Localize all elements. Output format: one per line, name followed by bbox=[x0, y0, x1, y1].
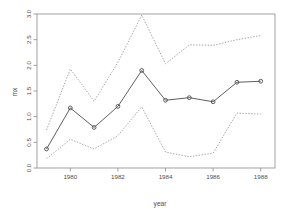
x-axis-title: year bbox=[154, 200, 168, 208]
chart-background bbox=[0, 0, 286, 218]
x-tick-label: 1988 bbox=[254, 173, 268, 180]
y-tick-label: 2.5 bbox=[25, 35, 32, 44]
x-tick-label: 1986 bbox=[206, 173, 220, 180]
line-chart: 0.00.51.01.52.02.53.0 198019821984198619… bbox=[0, 0, 286, 218]
y-axis-title: mx bbox=[11, 87, 18, 96]
y-tick-label: 1.5 bbox=[25, 86, 32, 95]
x-tick-label: 1984 bbox=[159, 173, 173, 180]
x-tick-label: 1982 bbox=[111, 173, 125, 180]
y-tick-label: 1.0 bbox=[25, 112, 32, 121]
y-tick-label: 0.0 bbox=[25, 163, 32, 172]
y-tick-label: 3.0 bbox=[25, 9, 32, 18]
y-tick-label: 0.5 bbox=[25, 137, 32, 146]
chart-container: 0.00.51.01.52.02.53.0 198019821984198619… bbox=[0, 0, 286, 218]
x-tick-label: 1980 bbox=[63, 173, 77, 180]
y-tick-label: 2.0 bbox=[25, 60, 32, 69]
